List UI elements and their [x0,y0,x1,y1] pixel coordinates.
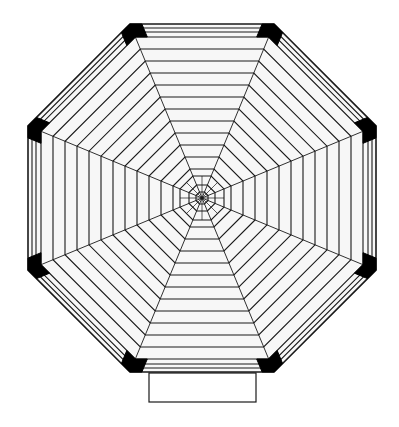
entrance-step-rect [149,373,256,402]
gazebo-floor-plan [0,0,399,427]
center-point [201,197,204,200]
octagon-diagram [0,0,399,427]
entrance-step [149,373,256,402]
